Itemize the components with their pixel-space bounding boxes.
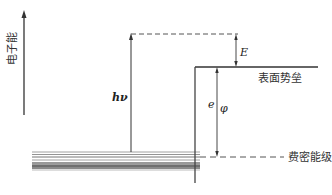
fermi-level-label: 费密能级 <box>288 150 332 164</box>
surface-barrier-label: 表面势垒 <box>258 71 302 85</box>
hv-label: hν <box>112 91 128 104</box>
axis-arrow-icon <box>22 10 27 18</box>
photon-energy-arrow <box>129 33 133 152</box>
work-function-e-label: e <box>208 98 215 111</box>
kinetic-energy-arrow <box>234 34 237 67</box>
fermi-band <box>32 152 200 170</box>
axis-label: 电子能 <box>5 32 19 65</box>
arrow-head-down-icon <box>234 61 237 67</box>
work-function-arrow <box>215 67 218 157</box>
work-function-phi-label: φ <box>220 102 228 115</box>
energy-diagram: 电子能 hν E 表面势垒 e φ 费密能级 <box>0 0 332 195</box>
arrow-head-up-icon <box>215 67 218 73</box>
e-label: E <box>239 46 248 59</box>
arrow-head-up-icon <box>234 34 237 40</box>
arrow-head-down-icon <box>215 151 218 157</box>
energy-axis <box>22 10 27 115</box>
